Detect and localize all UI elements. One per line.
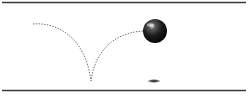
ball — [143, 19, 167, 43]
trajectory-path — [33, 24, 144, 81]
ball-highlight — [147, 23, 154, 26]
bouncing-ball-diagram — [0, 0, 249, 101]
ball-shadow — [147, 79, 161, 83]
